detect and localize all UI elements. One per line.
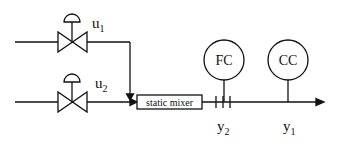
cc-label: CC (279, 53, 298, 68)
fc-label: FC (215, 53, 232, 68)
u1-label: u1 (92, 15, 105, 34)
outlet-arrow-icon (316, 99, 324, 106)
process-diagram: u1 u2 static mixer FC CC y2 y1 (0, 0, 338, 146)
y2-label: y2 (217, 118, 230, 137)
u2-label: u2 (95, 75, 108, 94)
control-valve-u2-icon (15, 74, 131, 112)
y1-label: y1 (283, 118, 296, 137)
arrow-right-icon (130, 99, 137, 106)
static-mixer-label: static mixer (146, 97, 194, 108)
